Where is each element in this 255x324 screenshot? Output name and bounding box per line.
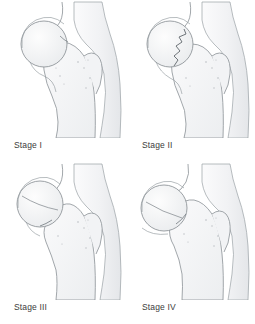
- illustration-stage-3: [0, 162, 127, 300]
- femoral-head-displaced: [17, 181, 63, 227]
- panel-stage-3: Stage III: [0, 162, 127, 324]
- stage-figure-grid: Stage I: [0, 0, 255, 324]
- caption-stage-1: Stage I: [14, 140, 42, 151]
- femoral-head: [147, 21, 193, 67]
- caption-stage-3: Stage III: [14, 302, 47, 313]
- femoral-head: [21, 21, 67, 67]
- illustration-stage-4: [128, 162, 255, 300]
- femoral-head-fully-displaced: [141, 185, 187, 231]
- caption-stage-4: Stage IV: [142, 302, 176, 313]
- panel-stage-1: Stage I: [0, 0, 127, 162]
- caption-stage-2: Stage II: [142, 140, 173, 151]
- illustration-stage-1: [0, 0, 127, 138]
- panel-stage-2: Stage II: [128, 0, 255, 162]
- panel-stage-4: Stage IV: [128, 162, 255, 324]
- illustration-stage-2: [128, 0, 255, 138]
